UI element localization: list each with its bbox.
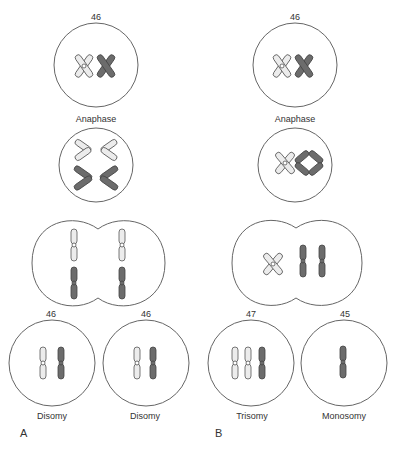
- panel-a-top-count: 46: [81, 12, 111, 22]
- panel-b-label: B: [215, 427, 222, 439]
- panel-b-cell2-caption: Monosomy: [304, 411, 384, 421]
- panel-a-anaphase-caption: Anaphase: [56, 114, 136, 124]
- panel-a-cell1-caption: Disomy: [12, 411, 92, 421]
- panel-b-daughter-cell-monosomy: [301, 320, 387, 406]
- panel-b-daughter-cell-trisomy: [208, 320, 294, 406]
- panel-a-daughter-cell-2: [103, 320, 189, 406]
- panel-b-cell2-count: 45: [330, 309, 360, 319]
- panel-a-cell2-caption: Disomy: [105, 411, 185, 421]
- panel-a-daughter-cell-1: [9, 320, 95, 406]
- panel-a-cell1-count: 46: [36, 309, 66, 319]
- panel-b-top-count: 46: [280, 12, 310, 22]
- panel-b-top-cell: [253, 23, 337, 107]
- panel-a-cell2-count: 46: [131, 309, 161, 319]
- panel-a-label: A: [20, 427, 27, 439]
- panel-b-anaphase-caption: Anaphase: [255, 114, 335, 124]
- panel-b-cell1-caption: Trisomy: [212, 411, 292, 421]
- nondisjunction-diagram: [0, 0, 400, 453]
- panel-a-dividing-cell: [32, 221, 165, 306]
- panel-b-cell1-count: 47: [236, 309, 266, 319]
- panel-a-top-cell: [54, 23, 138, 107]
- panel-b-dividing-cell: [232, 220, 362, 305]
- panel-b-anaphase-cell: [258, 128, 332, 202]
- panel-a-anaphase-cell: [59, 128, 133, 202]
